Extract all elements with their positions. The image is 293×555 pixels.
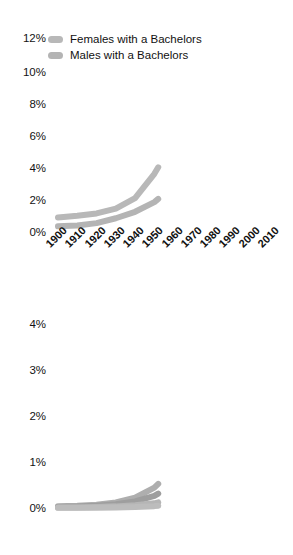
legend-item: Females with a Bachelors bbox=[48, 31, 202, 47]
bachelors-chart: 0%2%4%6%8%10%12% 19001910192019301940195… bbox=[0, 0, 293, 280]
legend-swatch-icon bbox=[48, 36, 63, 43]
legend-item-label: Males with a Bachelors bbox=[70, 49, 188, 62]
series-line bbox=[58, 506, 158, 508]
legend-swatch-icon bbox=[48, 52, 63, 59]
legend-item-label: Females with a Bachelors bbox=[70, 33, 202, 46]
legend-item: Males with a Bachelors bbox=[48, 47, 202, 63]
bachelors-x-axis: 1900191019201930194019501960197019801990… bbox=[0, 238, 293, 284]
advanced-degrees-plot-lines bbox=[0, 280, 293, 520]
advanced-degrees-chart: 0%1%2%3%4% 19001910192019301940195019601… bbox=[0, 280, 293, 555]
bachelors-legend: Females with a BachelorsMales with a Bac… bbox=[48, 31, 202, 63]
